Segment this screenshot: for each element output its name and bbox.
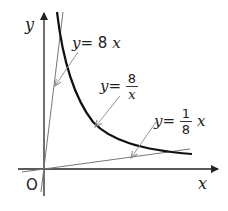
- pointer-8x: [55, 52, 78, 86]
- x-axis-label: x: [198, 176, 207, 192]
- fraction-8-over-x: 8 x: [126, 72, 138, 101]
- diagram-canvas: y x O y= 8 x y= 8 x y= 1 8 x: [0, 0, 228, 211]
- label-8x: y= 8 x: [72, 36, 121, 51]
- label-hyperbola: y= 8 x: [100, 72, 138, 101]
- pointer-x-over-8: [131, 122, 156, 158]
- fraction-1-over-8: 1 8: [180, 107, 192, 136]
- y-axis-label: y: [25, 17, 34, 33]
- label-x-over-8: y= 1 8 x: [154, 107, 205, 136]
- origin-label: O: [26, 178, 38, 193]
